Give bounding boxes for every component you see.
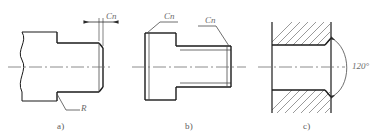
radius-leader-a — [57, 94, 80, 110]
chamfer-leader-right-b — [198, 26, 229, 46]
drawing-canvas — [0, 0, 383, 140]
chamfer-dimension-a — [84, 18, 118, 46]
bore-outline-c — [272, 22, 331, 113]
shaft-journal-outline-a — [57, 43, 103, 92]
shaft-head-outline-b — [145, 33, 176, 100]
angle-dimension-c — [331, 38, 347, 97]
section-hatch-upper-c — [262, 22, 356, 52]
shaft-journal-outline-b — [176, 46, 231, 87]
subfigure-a — [8, 18, 118, 110]
subfigure-c — [258, 22, 356, 120]
subfigure-b — [132, 22, 246, 100]
shaft-large-outline-a — [20, 32, 57, 101]
engineering-drawing-sheet: Cn R Cn Cn 120° a) b) c) — [0, 0, 383, 140]
chamfer-leader-left-b — [147, 22, 178, 33]
section-hatch-lower-c — [262, 90, 356, 120]
